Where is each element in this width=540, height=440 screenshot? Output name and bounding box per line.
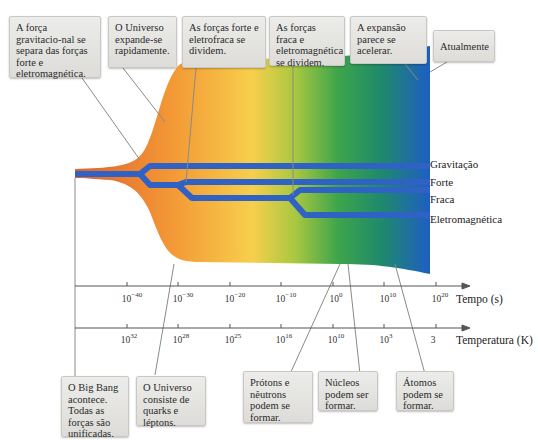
time-tick: 10−20 <box>225 291 245 304</box>
time-tick: 1020 <box>432 291 449 304</box>
time-axis-title: Tempo (s) <box>456 293 503 305</box>
label-strong: Forte <box>430 176 453 188</box>
temperature-tick: 3 <box>431 332 436 345</box>
callout-universe-expands: O Universo expande-se rapidamente. <box>108 16 177 68</box>
time-tick: 10−30 <box>173 291 193 304</box>
strong-line <box>178 182 430 185</box>
callout-strong-electroweak-split: As forças forte e eletrofraca se dividem… <box>182 16 266 68</box>
time-tick: 10−10 <box>276 291 296 304</box>
callout-weak-em-split: As forças fraca e eletromagnética se div… <box>269 16 345 66</box>
callout-gravity-separates: A força gravitacio-nal se separa das for… <box>9 16 101 78</box>
callout-quarks-leptons: O Universo consiste de quarks e léptons. <box>136 376 206 426</box>
label-weak: Fraca <box>430 193 454 205</box>
temperature-tick: 1010 <box>328 332 345 345</box>
temperature-tick: 1025 <box>225 332 242 345</box>
label-gravitation: Gravitação <box>430 158 478 170</box>
time-tick: 1010 <box>380 291 397 304</box>
temperature-tick: 103 <box>380 332 393 345</box>
callout-protons-neutrons: Prótons e nêutrons podem se formar. <box>243 371 313 423</box>
temperature-tick: 1016 <box>276 332 293 345</box>
label-electromagnetic: Eletromagnética <box>430 213 502 225</box>
callout-present-day: Atualmente <box>433 30 495 62</box>
temperature-tick: 1032 <box>121 332 138 345</box>
temperature-axis-title: Temperatura (K) <box>456 334 533 346</box>
callout-atoms: Átomos podem se formar. <box>396 371 454 411</box>
time-tick: 10−40 <box>122 291 142 304</box>
time-tick: 100 <box>330 291 343 304</box>
callout-expansion-accelerates: A expansão parece se acelerar. <box>350 16 427 64</box>
callout-nuclei: Núcleos podem ser formar. <box>318 371 378 411</box>
universe-band <box>75 46 430 274</box>
callout-big-bang: O Big Bang acontece. Todas as forças são… <box>61 376 129 437</box>
temperature-tick: 1028 <box>173 332 190 345</box>
